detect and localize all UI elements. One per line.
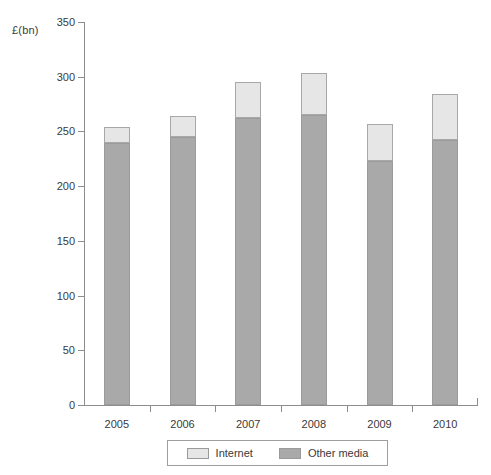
bar-group[interactable] [170,22,196,405]
bar-group[interactable] [367,22,393,405]
bar-segment-other-media[interactable] [104,143,130,405]
y-axis-tick-label: 300 [57,71,75,83]
bar-segment-internet[interactable] [367,124,393,161]
x-axis-tick [215,405,216,412]
bar-segment-other-media[interactable] [367,161,393,405]
y-axis-tick [78,131,84,132]
legend-item[interactable]: Internet [187,447,253,459]
y-axis-tick-label: 150 [57,235,75,247]
bar-segment-other-media[interactable] [170,137,196,405]
y-axis-tick [78,405,84,406]
plot-area: 050100150200250300350 200520062007200820… [84,22,478,405]
bar-segment-internet[interactable] [432,94,458,140]
bar-group[interactable] [301,22,327,405]
x-axis-tick-label: 2006 [170,418,194,430]
bar-segment-other-media[interactable] [432,140,458,405]
bar-segment-internet[interactable] [235,82,261,118]
y-axis-tick-label: 200 [57,180,75,192]
bar-group[interactable] [432,22,458,405]
x-axis-tick [281,405,282,412]
y-axis-tick-label: 50 [63,344,75,356]
bar-group[interactable] [104,22,130,405]
y-axis-tick-label: 250 [57,125,75,137]
x-axis-tick-label: 2009 [367,418,391,430]
y-axis-line [84,22,85,405]
x-axis-tick-label: 2008 [302,418,326,430]
x-axis-end-tick [477,398,478,406]
bar-segment-other-media[interactable] [235,118,261,405]
legend-item[interactable]: Other media [279,447,369,459]
bar-group[interactable] [235,22,261,405]
bar-segment-internet[interactable] [104,127,130,143]
y-axis-tick [78,350,84,351]
y-axis-tick [78,22,84,23]
x-axis-tick-label: 2007 [236,418,260,430]
legend-swatch-icon [279,448,301,459]
legend-label: Internet [216,447,253,459]
x-axis-tick [412,405,413,412]
y-axis-tick [78,296,84,297]
x-axis-tick-label: 2005 [105,418,129,430]
bar-segment-internet[interactable] [170,116,196,137]
bar-segment-internet[interactable] [301,73,327,115]
x-axis-tick [150,405,151,412]
y-axis-tick [78,241,84,242]
y-axis-title: £(bn) [12,24,39,36]
chart-legend: InternetOther media [167,440,388,466]
bar-segment-other-media[interactable] [301,115,327,405]
legend-label: Other media [308,447,369,459]
y-axis-tick [78,186,84,187]
y-axis-tick-label: 350 [57,16,75,28]
legend-swatch-icon [187,448,209,459]
x-axis-tick-label: 2010 [433,418,457,430]
stacked-bar-chart: £(bn) 050100150200250300350 200520062007… [0,0,491,475]
y-axis-tick [78,77,84,78]
y-axis-tick-label: 100 [57,290,75,302]
x-axis-tick [347,405,348,412]
y-axis-tick-label: 0 [69,399,75,411]
